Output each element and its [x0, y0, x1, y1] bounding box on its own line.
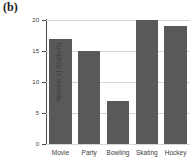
y-axis-title: Number of Students	[54, 32, 64, 112]
y-axis-tick	[42, 82, 46, 83]
y-axis-title-wrap: Number of Students	[54, 32, 64, 112]
y-axis-tick-label-wrap: 5	[14, 110, 39, 116]
y-axis-tick-label-wrap: 15	[14, 48, 39, 54]
bar-chart-figure: (b) Number of Students 05101520 MoviePar…	[0, 0, 196, 166]
y-axis-tick-label-wrap: 0	[14, 141, 39, 147]
bar	[78, 51, 100, 144]
y-axis-tick	[42, 113, 46, 114]
y-axis-tick-label: 5	[15, 110, 39, 116]
plot-area: Number of Students	[46, 20, 190, 144]
panel-label: (b)	[3, 1, 18, 14]
y-axis-tick-label: 0	[15, 141, 39, 147]
y-axis-tick	[42, 51, 46, 52]
y-axis-tick-label: 10	[15, 79, 39, 85]
y-axis-tick	[42, 144, 46, 145]
gridline	[46, 144, 190, 145]
x-axis-tick-label: Hockey	[156, 149, 196, 157]
bar	[107, 101, 129, 144]
bar	[164, 26, 186, 144]
y-axis-tick-label: 20	[15, 17, 39, 23]
y-axis-tick-label-wrap: 10	[14, 79, 39, 85]
y-axis-tick	[42, 20, 46, 21]
y-axis-tick-label-wrap: 20	[14, 17, 39, 23]
gridline	[46, 20, 190, 21]
y-axis-tick-label: 15	[15, 48, 39, 54]
bar	[136, 20, 158, 144]
